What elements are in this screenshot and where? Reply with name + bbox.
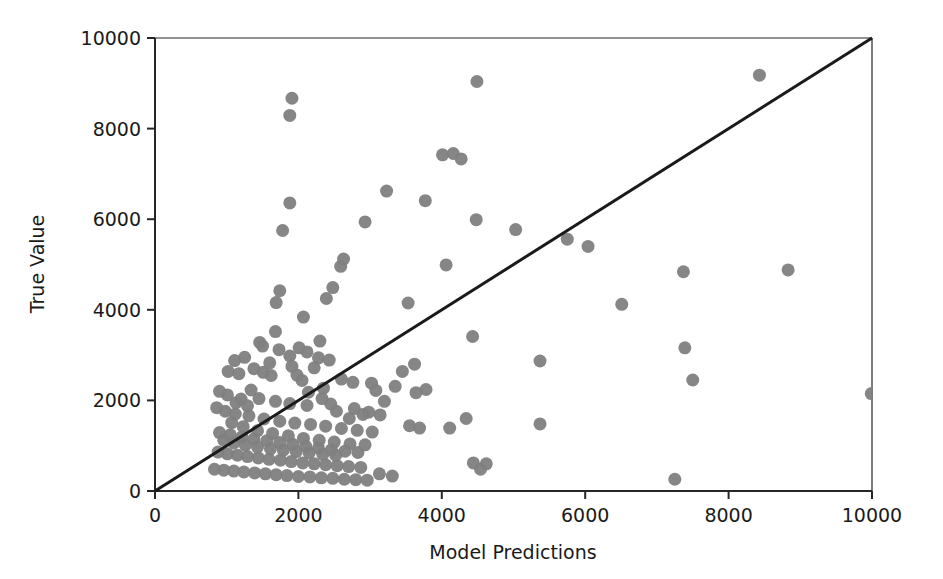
scatter-point	[263, 356, 276, 369]
scatter-point	[316, 392, 329, 405]
scatter-point	[276, 224, 289, 237]
x-tick-label: 8000	[704, 504, 752, 526]
scatter-point	[534, 417, 547, 430]
scatter-point	[329, 449, 342, 462]
scatter-point	[313, 434, 326, 447]
x-tick-label: 2000	[274, 504, 322, 526]
scatter-point	[342, 460, 355, 473]
scatter-point	[295, 374, 308, 387]
scatter-point	[297, 311, 310, 324]
scatter-point	[301, 345, 314, 358]
scatter-point	[320, 292, 333, 305]
scatter-point	[344, 437, 357, 450]
scatter-point	[230, 396, 243, 409]
scatter-point	[304, 418, 317, 431]
scatter-point	[303, 446, 316, 459]
scatter-point	[369, 384, 382, 397]
scatter-point	[316, 448, 329, 461]
scatter-point	[413, 422, 426, 435]
scatter-point	[380, 185, 393, 198]
y-tick-label: 4000	[93, 299, 141, 321]
scatter-point	[323, 354, 336, 367]
scatter-point	[668, 473, 681, 486]
scatter-point	[308, 361, 321, 374]
y-tick-label: 6000	[93, 208, 141, 230]
scatter-point	[343, 412, 356, 425]
scatter-point	[509, 223, 522, 236]
scatter-point	[782, 263, 795, 276]
scatter-point	[753, 69, 766, 82]
scatter-point	[264, 442, 277, 455]
scatter-point	[232, 367, 245, 380]
scatter-point	[283, 109, 296, 122]
scatter-point	[366, 426, 379, 439]
scatter-point	[408, 358, 421, 371]
scatter-point	[534, 354, 547, 367]
scatter-point	[277, 444, 290, 457]
scatter-point	[273, 284, 286, 297]
scatter-point	[386, 470, 399, 483]
scatter-point	[409, 386, 422, 399]
scatter-point	[582, 240, 595, 253]
scatter-point	[334, 260, 347, 273]
x-tick-label: 0	[149, 504, 161, 526]
x-tick-label: 10000	[842, 504, 902, 526]
scatter-point	[270, 296, 283, 309]
x-axis-title: Model Predictions	[429, 541, 596, 563]
x-tick-label: 4000	[418, 504, 466, 526]
scatter-point	[436, 148, 449, 161]
scatter-point	[351, 424, 364, 437]
scatter-point	[678, 341, 691, 354]
scatter-point	[419, 194, 432, 207]
y-tick-label: 8000	[93, 118, 141, 140]
scatter-point	[615, 298, 628, 311]
scatter-point	[297, 432, 310, 445]
y-tick-label: 0	[129, 480, 141, 502]
scatter-point	[266, 427, 279, 440]
scatter-point	[301, 399, 314, 412]
scatter-point	[338, 473, 351, 486]
scatter-point	[686, 374, 699, 387]
scatter-point	[354, 461, 367, 474]
scatter-point	[359, 438, 372, 451]
scatter-point	[313, 335, 326, 348]
y-tick-label: 10000	[81, 27, 141, 49]
scatter-point	[225, 416, 238, 429]
scatter-point	[256, 340, 269, 353]
scatter-point	[373, 467, 386, 480]
scatter-point	[251, 441, 264, 454]
scatter-point	[303, 470, 316, 483]
y-tick-label: 2000	[93, 389, 141, 411]
scatter-point	[326, 281, 339, 294]
scatter-point	[252, 392, 265, 405]
scatter-point	[265, 369, 278, 382]
scatter-point	[330, 405, 343, 418]
scatter-point	[443, 422, 456, 435]
scatter-point	[285, 92, 298, 105]
scatter-point	[440, 258, 453, 271]
scatter-point	[290, 445, 303, 458]
scatter-point	[228, 354, 241, 367]
scatter-point	[292, 470, 305, 483]
scatter-point	[359, 215, 372, 228]
scatter-point	[346, 376, 359, 389]
scatter-point	[288, 417, 301, 430]
scatter-point	[349, 473, 362, 486]
plot-canvas: 0200040006000800010000 02000400060008000…	[0, 0, 943, 579]
scatter-point	[326, 472, 339, 485]
scatter-point	[460, 412, 473, 425]
scatter-point	[269, 325, 282, 338]
scatter-point	[241, 399, 254, 412]
scatter-point	[269, 395, 282, 408]
scatter-point	[222, 365, 235, 378]
scatter-point	[282, 429, 295, 442]
scatter-point	[280, 469, 293, 482]
scatter-point	[677, 265, 690, 278]
scatter-point	[466, 330, 479, 343]
scatter-point	[239, 439, 252, 452]
scatter-point	[402, 297, 415, 310]
scatter-point	[328, 436, 341, 449]
scatter-point	[285, 360, 298, 373]
scatter-point	[374, 408, 387, 421]
scatter-point	[455, 152, 468, 165]
